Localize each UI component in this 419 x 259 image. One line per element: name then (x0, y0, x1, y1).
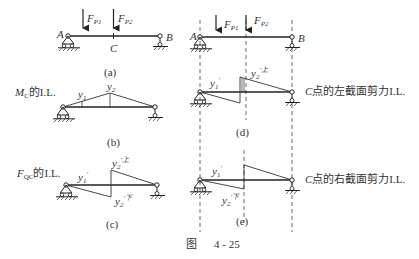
point-b-label: B (166, 31, 173, 43)
point-a-label: A (56, 28, 64, 40)
panel-c-caption: (c) (106, 218, 119, 231)
load-label-fp1: FP1 (223, 18, 239, 32)
figure-caption-number: 4 - 25 (214, 238, 240, 250)
figure-caption: 图 4 - 25 (186, 238, 240, 250)
panel-b-title: MC的I.L. (14, 85, 56, 100)
panel-e-caption: (e) (236, 215, 249, 228)
ordinate-y2-bottom-label: y2′下 (114, 194, 133, 209)
panel-c-shear-il: FQC的I.L. y1′ y2′上 y2′下 (c) (16, 156, 165, 231)
ordinate-y1-label: y1′ (77, 170, 88, 185)
ordinate-y2-top-label: y2′上 (111, 156, 130, 171)
ordinate-y2-label: y2 (106, 80, 116, 94)
influence-line-figure: FP1 FP2 A C B (a) MC的I.L. y1 y2 (b) FQC的… (0, 0, 419, 259)
point-a-label: A (189, 30, 197, 42)
panel-a-caption: (a) (104, 66, 117, 79)
panel-a-beam-diagram: FP1 FP2 A C B (a) (56, 9, 173, 79)
panel-e-description: C点的右截面剪力I.L. (305, 172, 405, 185)
ordinate-y1-label: y1′ (209, 76, 220, 91)
panel-b-caption: (b) (107, 136, 120, 149)
ordinate-y2-label: y2′上 (250, 66, 269, 81)
load-label-fp1: FP1 (86, 12, 102, 26)
ordinate-y1-label: y1′ (211, 164, 222, 179)
figure-caption-prefix: 图 (186, 238, 197, 250)
panel-e-right-shear-il: y1′ y2′下 C点的右截面剪力I.L. (e) (190, 150, 405, 228)
ordinate-y2-label: y2′下 (221, 193, 240, 208)
panel-c-title: FQC的I.L. (16, 166, 61, 181)
ordinate-y1-label: y1 (77, 88, 86, 102)
panel-b-moment-il: MC的I.L. y1 y2 (b) (14, 80, 163, 149)
load-label-fp2: FP2 (117, 12, 133, 26)
panel-d-description: C点的左截面剪力I.L. (305, 84, 405, 97)
panel-d-caption: (d) (236, 126, 249, 139)
point-b-label: B (298, 32, 305, 44)
load-label-fp2: FP2 (253, 14, 269, 28)
point-c-label: C (110, 42, 118, 54)
